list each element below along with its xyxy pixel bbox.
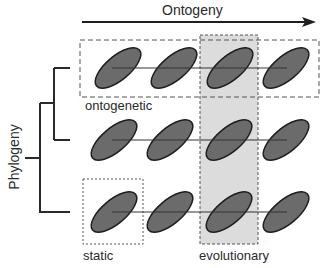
phylogeny-tree bbox=[25, 68, 70, 213]
phylogeny-axis-title: Phylogeny bbox=[7, 124, 21, 189]
evolutionary-label: evolutionary bbox=[199, 249, 269, 262]
ontogeny-arrow-icon bbox=[82, 17, 316, 27]
ontogeny-axis-title: Ontogeny bbox=[162, 3, 223, 17]
integration-levels-diagram bbox=[0, 0, 328, 268]
ontogenetic-label: ontogenetic bbox=[85, 99, 152, 112]
static-label: static bbox=[83, 249, 113, 262]
